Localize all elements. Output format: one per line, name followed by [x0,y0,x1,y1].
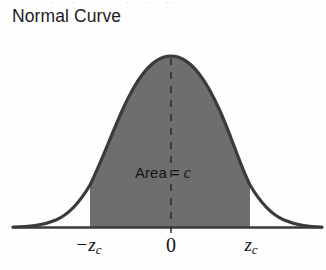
page-title: Normal Curve [12,5,121,27]
x-tick-zero-symbol: 0 [166,234,176,256]
x-tick-label-negative-zc: −zc [60,234,118,258]
x-tick-negative-symbol: z [88,234,95,255]
x-tick-label-zero: 0 [142,234,200,257]
x-tick-negative-subscript: c [96,242,102,257]
normal-curve-figure: Standard Normal Distribution Normal Curv… [0,0,326,270]
minus-sign: − [77,234,88,255]
x-tick-label-positive-zc: zc [222,234,280,258]
x-tick-positive-subscript: c [252,242,258,257]
clipped-heading-remnant: Standard Normal Distribution [13,0,263,3]
normal-curve-plot [0,34,326,234]
x-tick-positive-symbol: z [244,234,251,255]
shaded-confidence-area [90,56,250,227]
